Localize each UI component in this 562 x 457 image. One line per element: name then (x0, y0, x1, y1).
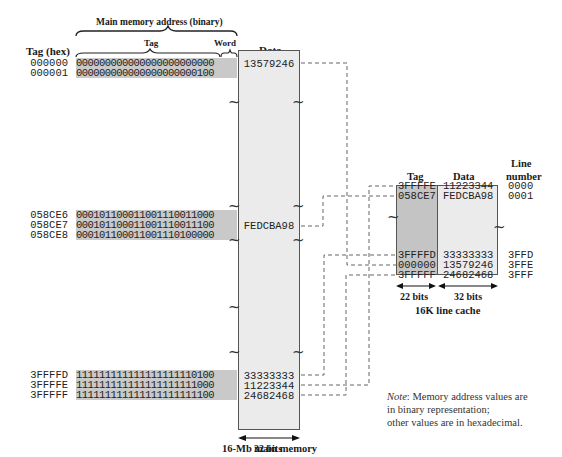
binary-address: 000101100011001110100000 (76, 230, 237, 240)
break-mark-icon: ~ (292, 235, 305, 245)
break-mark-icon: ~ (387, 212, 400, 222)
tag-hex-value: 058CE8 (6, 230, 68, 240)
break-mark-icon: ~ (292, 201, 305, 211)
cache-data-value: FEDCBA98 (443, 191, 493, 201)
tag-hex-value: 3FFFFF (6, 390, 68, 400)
note-line-2: in binary representation; (387, 403, 562, 416)
break-mark-icon: ~ (292, 97, 305, 107)
break-mark-icon: ~ (228, 201, 241, 211)
note-line-3: other values are in hexadecimal. (387, 416, 562, 429)
break-mark-icon: ~ (228, 302, 241, 312)
note-prefix: Note (387, 391, 407, 402)
cache-tag-value: 3FFFFF (398, 270, 436, 280)
cache-tag-value: 058CE7 (398, 191, 436, 201)
break-mark-icon: ~ (228, 347, 241, 357)
memory-data-value: 13579246 (238, 59, 300, 69)
cache-data-value: 24682468 (443, 270, 493, 280)
memory-caption: 16-Mb main memory (222, 443, 317, 454)
break-mark-icon: ~ (292, 347, 305, 357)
cache-line-header: Line (511, 158, 531, 169)
binary-address: 000000000000000000000100 (76, 68, 237, 78)
word-brace (221, 50, 237, 57)
note-text: Note: Memory address values are in binar… (387, 390, 562, 429)
cache-line-number: 3FFF (508, 270, 533, 280)
word-label: Word (214, 38, 236, 48)
cache-line-number: 0001 (508, 191, 533, 201)
tag-hex-label: Tag (hex) (26, 45, 70, 57)
address-brace (76, 26, 237, 36)
break-mark-icon: ~ (228, 97, 241, 107)
note-line-1: : Memory address values are (407, 391, 528, 402)
memory-data-value: 24682468 (238, 391, 300, 401)
tag-hex-value: 000001 (6, 68, 68, 78)
binary-address: 111111111111111111111100 (76, 390, 237, 400)
address-label: Main memory address (binary) (96, 17, 223, 27)
break-mark-icon: ~ (228, 235, 241, 245)
memory-data-value: FEDCBA98 (238, 221, 300, 231)
break-mark-icon: ~ (493, 222, 506, 232)
cache-data-width-label: 32 bits (454, 291, 482, 302)
cache-tag-width-label: 22 bits (400, 291, 428, 302)
tag-brace (76, 49, 220, 57)
tag-label: Tag (144, 38, 158, 48)
cache-caption: 16K line cache (415, 305, 480, 316)
